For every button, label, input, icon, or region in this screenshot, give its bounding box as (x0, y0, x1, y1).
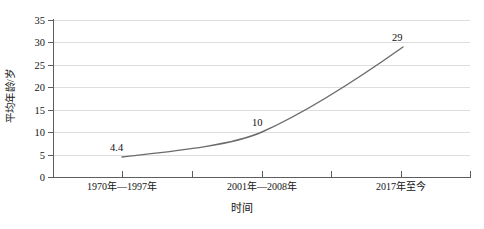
x-tick-mark-2 (192, 171, 193, 177)
gridline-30 (53, 42, 470, 43)
gridline-25 (53, 65, 470, 66)
y-tick-mark-30 (48, 42, 53, 43)
x-tick-mark-4 (331, 171, 332, 177)
y-tick-mark-20 (48, 87, 53, 88)
plot-area (53, 20, 470, 177)
y-tick-label-20: 20 (25, 83, 45, 93)
data-label-point-1: 4.4 (110, 142, 123, 153)
gridline-35 (53, 20, 470, 21)
gridline-15 (53, 110, 470, 111)
x-tick-label-2: 2001年—2008年 (202, 180, 322, 194)
y-tick-label-25: 25 (25, 61, 45, 71)
x-tick-label-1: 1970年—1997年 (62, 180, 182, 194)
x-tick-mark-6 (470, 171, 471, 177)
x-tick-mark-3 (262, 171, 263, 177)
gridline-20 (53, 87, 470, 88)
x-axis-line (53, 177, 471, 178)
gridline-5 (53, 155, 470, 156)
y-tick-label-15: 15 (25, 106, 45, 116)
data-label-point-2: 10 (252, 117, 263, 128)
y-tick-label-0: 0 (25, 173, 45, 183)
x-tick-label-3: 2017年至今 (346, 180, 456, 194)
line-chart: 平均年龄/岁 35 30 25 20 15 10 5 0 4.4 10 29 1… (0, 0, 484, 229)
y-tick-mark-0 (48, 177, 53, 178)
y-tick-mark-15 (48, 110, 53, 111)
y-tick-label-35: 35 (25, 16, 45, 26)
y-axis-line (53, 19, 54, 178)
data-label-point-3: 29 (392, 32, 403, 43)
y-tick-label-5: 5 (25, 151, 45, 161)
y-axis-title: 平均年龄/岁 (4, 44, 18, 148)
y-tick-label-30: 30 (25, 38, 45, 48)
y-tick-mark-10 (48, 132, 53, 133)
x-tick-mark-1 (122, 171, 123, 177)
y-tick-mark-5 (48, 155, 53, 156)
y-tick-mark-35 (48, 20, 53, 21)
x-axis-title: 时间 (0, 201, 484, 216)
gridline-10 (53, 132, 470, 133)
y-tick-label-10: 10 (25, 128, 45, 138)
y-tick-mark-25 (48, 65, 53, 66)
x-tick-mark-5 (401, 171, 402, 177)
